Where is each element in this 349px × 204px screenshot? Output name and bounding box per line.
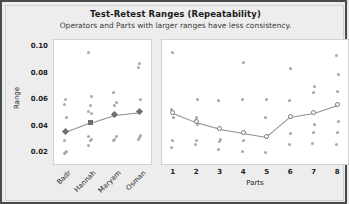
y-axis-tick: 0.08 [22, 69, 48, 77]
data-point [288, 143, 291, 146]
data-point [65, 150, 68, 153]
data-point [115, 101, 118, 104]
part-label: 3 [213, 168, 227, 176]
data-point [195, 139, 198, 142]
operators-panel [53, 39, 152, 165]
data-point [264, 151, 267, 154]
data-point [196, 98, 199, 101]
data-point [170, 146, 173, 149]
data-point [242, 139, 245, 142]
operator-label: Osman [120, 169, 147, 196]
chart-title: Test-Retest Ranges (Repeatability) [6, 9, 345, 19]
data-point [241, 98, 244, 101]
operator-label: Maryam [96, 169, 123, 196]
chart-inner-panel: Test-Retest Ranges (Repeatability) Opera… [5, 5, 344, 201]
data-point [288, 99, 291, 102]
part-label: 2 [189, 168, 203, 176]
y-axis-tick: 0.02 [22, 148, 48, 156]
part-label: 5 [260, 168, 274, 176]
data-point [137, 66, 140, 69]
parts-panel [161, 39, 349, 165]
mean-marker [241, 130, 246, 135]
data-point [194, 143, 197, 146]
operator-label: Badr [46, 169, 73, 196]
data-point [241, 150, 244, 153]
y-axis-tick: 0.10 [22, 42, 48, 50]
part-label: 7 [307, 168, 321, 176]
mean-marker [335, 102, 340, 107]
data-point [64, 98, 67, 101]
part-label: 8 [330, 168, 344, 176]
part-label: 4 [236, 168, 250, 176]
data-point [63, 139, 66, 142]
data-point [242, 61, 245, 64]
y-axis-tick: 0.06 [22, 95, 48, 103]
data-point [90, 138, 93, 141]
operator-label: Hannah [71, 169, 98, 196]
data-point [115, 135, 118, 138]
part-label: 6 [283, 168, 297, 176]
chart-subtitle: Operators and Parts with larger ranges h… [6, 21, 345, 30]
data-point [335, 54, 338, 57]
data-point [335, 143, 338, 146]
data-point [63, 103, 66, 106]
x-axis-label-parts: Parts [161, 179, 349, 187]
data-point [336, 131, 339, 134]
y-axis-label: Range [13, 78, 21, 118]
mean-marker [88, 120, 93, 125]
data-point [337, 73, 340, 76]
y-axis-tick: 0.04 [22, 122, 48, 130]
mean-marker [288, 114, 293, 119]
data-point [311, 142, 314, 145]
part-label: 1 [166, 168, 180, 176]
data-point [336, 90, 339, 93]
